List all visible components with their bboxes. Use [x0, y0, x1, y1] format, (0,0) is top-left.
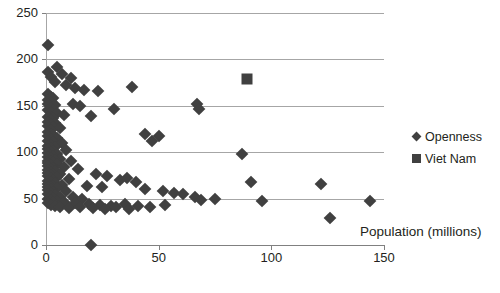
x-tick-label-100: 100	[251, 251, 291, 264]
y-tick-label-200: 200	[0, 52, 38, 65]
y-tick-label-150: 150	[0, 99, 38, 112]
square-marker-icon	[410, 152, 424, 166]
data-point	[241, 73, 252, 84]
legend-item-viet-nam: Viet Nam	[410, 148, 498, 170]
gridline-y-100	[46, 152, 384, 153]
gridline-y-200	[46, 59, 384, 60]
chart-legend: Openness Viet Nam	[410, 126, 498, 170]
x-axis-title: Population (millions)	[360, 224, 482, 239]
x-tick-label-50: 50	[139, 251, 179, 264]
y-tick-label-0: 0	[0, 238, 38, 251]
y-tick-label-50: 50	[0, 192, 38, 205]
x-tick-label-0: 0	[26, 251, 66, 264]
y-tick-label-250: 250	[0, 6, 38, 19]
x-tick-label-150: 150	[364, 251, 404, 264]
legend-label-viet-nam: Viet Nam	[425, 152, 476, 166]
gridline-y-150	[46, 106, 384, 107]
diamond-marker-icon	[410, 130, 424, 144]
y-tick-label-100: 100	[0, 145, 38, 158]
gridline-y-250	[46, 13, 384, 14]
legend-label-openness: Openness	[425, 130, 482, 144]
legend-item-openness: Openness	[410, 126, 498, 148]
scatter-chart: Population (millions) Openness Viet Nam …	[0, 0, 500, 293]
